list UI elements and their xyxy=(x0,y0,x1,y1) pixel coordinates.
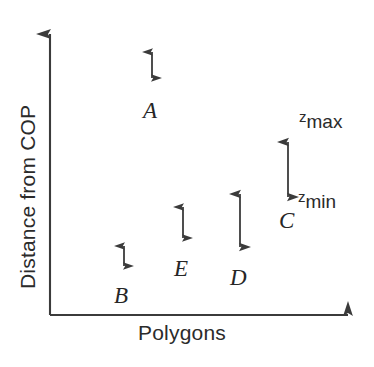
x-axis-label: Polygons xyxy=(138,321,226,345)
zmax-subscript: max xyxy=(307,111,343,132)
zmax-annotation: zmax xyxy=(299,108,342,130)
depth-range-diagram: Distance from COP Polygons A B E D C zma… xyxy=(0,0,374,367)
zmin-variable: z xyxy=(298,188,306,205)
series-label-B: B xyxy=(114,283,128,309)
zmin-subscript: min xyxy=(306,191,337,212)
series-label-C: C xyxy=(279,208,294,234)
series-label-A: A xyxy=(143,98,157,124)
series-label-E: E xyxy=(174,256,188,282)
diagram-canvas xyxy=(0,0,374,367)
zmin-annotation: zmin xyxy=(298,188,336,210)
y-axis-label: Distance from COP xyxy=(16,105,40,289)
zmax-variable: z xyxy=(299,108,307,125)
series-label-D: D xyxy=(230,265,247,291)
